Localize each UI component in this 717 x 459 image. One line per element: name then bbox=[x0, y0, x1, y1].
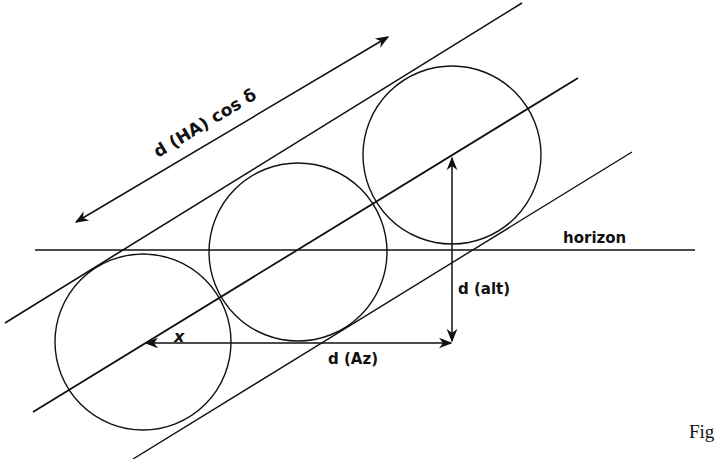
altitude-label: d (alt) bbox=[458, 280, 510, 298]
center-line bbox=[33, 78, 578, 412]
upper-tangent-line bbox=[5, 3, 522, 323]
horizon-label: horizon bbox=[563, 229, 626, 247]
star-trail-diagram: d (HA) cos δ horizon d (alt) d (Az) x Fi… bbox=[0, 0, 717, 459]
angle-x-label: x bbox=[173, 327, 185, 346]
figure-caption: Fig bbox=[689, 421, 715, 442]
sun-disc-2 bbox=[209, 163, 387, 341]
hour-angle-arrow bbox=[76, 37, 388, 222]
azimuth-label: d (Az) bbox=[328, 350, 378, 368]
sun-disc-1 bbox=[55, 254, 231, 430]
